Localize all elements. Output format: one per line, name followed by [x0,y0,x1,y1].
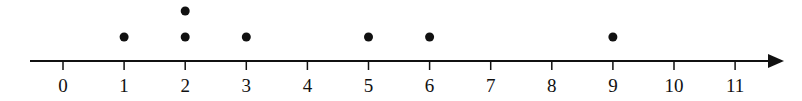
axis-tick-label: 9 [608,75,618,96]
axis-ticks [63,61,735,70]
data-dot [120,33,129,42]
axis-tick-label: 7 [486,75,496,96]
axis-tick-label: 10 [665,75,684,96]
data-dot [181,7,190,16]
data-dot [181,33,190,42]
axis-tick-label: 3 [242,75,252,96]
data-dot [608,33,617,42]
axis-tick-label: 0 [58,75,68,96]
axis-arrow-icon [768,54,784,68]
axis-tick-label: 8 [547,75,557,96]
axis-tick-labels: 01234567891011 [58,75,744,96]
data-dot [364,33,373,42]
axis-tick-label: 5 [364,75,374,96]
axis-tick-label: 11 [726,75,744,96]
axis-tick-label: 4 [303,75,313,96]
axis-tick-label: 6 [425,75,435,96]
axis-tick-label: 1 [119,75,129,96]
data-dots [120,7,618,42]
axis-tick-label: 2 [180,75,190,96]
dot-plot: 01234567891011 [0,0,802,101]
data-dot [242,33,251,42]
data-dot [425,33,434,42]
